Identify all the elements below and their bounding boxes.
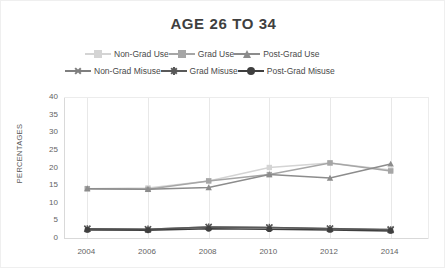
legend-item-non-grad-use[interactable]: Non-Grad Use: [85, 45, 169, 62]
post-grad-use-marker-icon: [234, 48, 260, 59]
legend-label: Grad Use: [198, 49, 234, 59]
post-grad-misuse-marker-icon: [238, 65, 264, 76]
legend-label: Post-Grad Use: [263, 49, 319, 59]
legend-item-non-grad-misuse[interactable]: Non-Grad Misuse: [65, 62, 161, 79]
x-tick-label: 2008: [188, 247, 228, 256]
data-point: [387, 161, 393, 167]
series-grad-use: [85, 160, 394, 192]
series-layer: [65, 97, 429, 238]
y-tick-label: 20: [34, 163, 58, 172]
chart-container: AGE 26 TO 34 Non-Grad Use Grad Use Post-…: [0, 0, 445, 268]
data-point: [327, 227, 333, 233]
data-point: [388, 228, 394, 234]
y-tick-label: 35: [34, 110, 58, 119]
x-tick-label: 2014: [370, 247, 410, 256]
y-tick-label: 0: [34, 233, 58, 242]
series-line: [87, 164, 390, 189]
legend-item-post-grad-use[interactable]: Post-Grad Use: [234, 45, 319, 62]
y-axis-label: PERCENTAGES: [15, 119, 24, 189]
legend-row-misuse: Non-Grad Misuse Grad Misuse Post-Grad Mi…: [65, 62, 395, 79]
y-tick-label: 25: [34, 145, 58, 154]
data-point: [206, 178, 211, 183]
legend-label: Grad Misuse: [190, 66, 238, 76]
x-tick-label: 2004: [66, 247, 106, 256]
data-point: [388, 168, 393, 173]
non-grad-misuse-marker-icon: [65, 65, 91, 76]
y-tick-label: 15: [34, 180, 58, 189]
y-tick-label: 40: [34, 92, 58, 101]
series-line: [87, 163, 390, 189]
legend-item-grad-use[interactable]: Grad Use: [169, 45, 234, 62]
data-point: [266, 226, 272, 232]
legend-label: Non-Grad Misuse: [94, 66, 161, 76]
y-tick-label: 30: [34, 127, 58, 136]
legend-row-use: Non-Grad Use Grad Use Post-Grad Use: [65, 45, 395, 62]
y-tick-label: 10: [34, 198, 58, 207]
data-point: [145, 227, 151, 233]
data-point: [206, 226, 212, 232]
chart-title: AGE 26 TO 34: [1, 15, 445, 32]
plot-area: [64, 97, 429, 239]
chart-legend: Non-Grad Use Grad Use Post-Grad Use Non-…: [65, 45, 395, 79]
x-tick-label: 2006: [127, 247, 167, 256]
legend-label: Non-Grad Use: [114, 49, 169, 59]
grad-misuse-marker-icon: [161, 65, 187, 76]
non-grad-use-marker-icon: [85, 48, 111, 59]
data-point: [84, 227, 90, 233]
legend-item-post-grad-misuse[interactable]: Post-Grad Misuse: [238, 62, 335, 79]
x-tick-label: 2010: [248, 247, 288, 256]
series-non-grad-misuse: [84, 224, 393, 232]
legend-label: Post-Grad Misuse: [267, 66, 335, 76]
data-point: [327, 160, 332, 165]
legend-item-grad-misuse[interactable]: Grad Misuse: [161, 62, 238, 79]
grad-use-marker-icon: [169, 48, 195, 59]
x-tick-label: 2012: [309, 247, 349, 256]
y-tick-label: 5: [34, 215, 58, 224]
series-line: [87, 163, 390, 189]
data-point: [267, 165, 272, 170]
